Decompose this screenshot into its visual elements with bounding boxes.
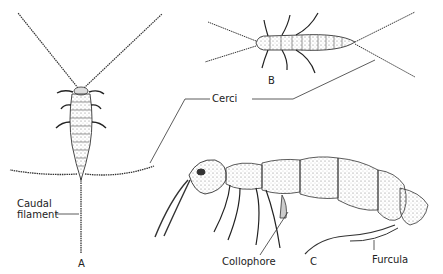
label-b: B [268, 75, 275, 86]
label-cerci: Cerci [212, 93, 237, 104]
specimen-b [205, 12, 415, 77]
caudal-line-1: Caudal [17, 198, 58, 209]
specimen-c [155, 157, 428, 254]
label-caudal-filament: Caudal filament [17, 198, 58, 220]
label-a: A [78, 258, 85, 269]
illustration [0, 0, 443, 274]
label-furcula: Furcula [372, 254, 408, 265]
caudal-line-2: filament [17, 209, 58, 220]
label-c: C [310, 256, 317, 267]
diagram-figure: A B C Cerci Caudal filament Collophore F… [0, 0, 443, 274]
label-collophore: Collophore [222, 256, 276, 267]
